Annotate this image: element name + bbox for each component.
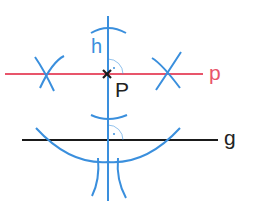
label-P: P [115, 78, 129, 101]
label-g: g [224, 126, 236, 149]
arc-cross-right [152, 52, 181, 90]
label-h: h [91, 35, 102, 57]
label-p: p [209, 61, 221, 84]
right-angle-marker-g [108, 125, 123, 140]
construction-diagram: h P p g [0, 0, 253, 218]
